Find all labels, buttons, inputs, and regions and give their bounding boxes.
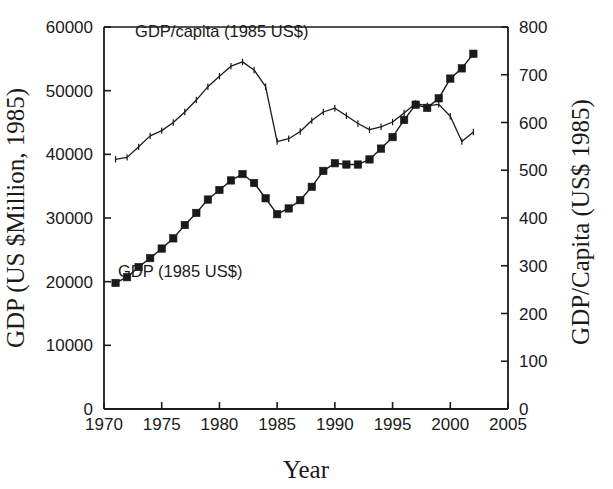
gdp-point-marker [273,210,280,217]
gdp-point-marker [389,133,396,140]
y-axis-right-title: GDP/Capita (US$ 1985) [567,99,595,345]
x-axis-tick-label: 2000 [431,415,469,434]
gdp-point-marker [343,161,350,168]
y-axis-right-tick-label: 500 [519,161,547,180]
y-axis-right-tick-label: 800 [519,18,547,37]
y-axis-left-title: GDP (US $Million, 1985) [2,88,30,348]
y-axis-right-tick-label: 300 [519,257,547,276]
gdp-point-marker [458,65,465,72]
gdp-point-marker [112,279,119,286]
gdp-point-marker [447,75,454,82]
chart-canvas: 0100002000030000400005000060000 01002003… [0,0,613,489]
x-axis-tick-label: 1985 [258,415,296,434]
gdp-point-marker [146,254,153,261]
gdp-point-marker [193,209,200,216]
gdp-point-marker [250,179,257,186]
y-axis-right-tick-label: 400 [519,209,547,228]
gdp-point-marker [377,145,384,152]
y-axis-right-tick-label: 100 [519,352,547,371]
gdp-point-marker [435,95,442,102]
x-axis-tick-label: 2005 [489,415,527,434]
x-axis-tick-label: 1980 [201,415,239,434]
gdp-chart-figure: 0100002000030000400005000060000 01002003… [0,0,613,489]
y-axis-left-tick-label: 40000 [46,145,93,164]
gdp-point-marker [412,101,419,108]
y-axis-right-tick-labels: 0100200300400500600700800 [519,18,547,419]
y-axis-right-tick-label: 700 [519,66,547,85]
y-axis-left-tick-label: 50000 [46,82,93,101]
gdp-point-marker [285,205,292,212]
gdp-point-marker [354,161,361,168]
y-axis-left-tick-label: 10000 [46,336,93,355]
gdp-point-marker [297,196,304,203]
gdp-point-marker [239,170,246,177]
gdp-point-marker [158,245,165,252]
x-axis-tick-label: 1970 [85,415,123,434]
series-label-gdp-per-capita: GDP/capita (1985 US$) [135,22,308,40]
y-axis-left-tick-label: 30000 [46,209,93,228]
gdp-point-marker [366,156,373,163]
y-axis-right-tick-label: 200 [519,305,547,324]
y-axis-left-tick-label: 60000 [46,18,93,37]
series-label-gdp: GDP (1985 US$) [118,262,242,280]
x-axis-tick-label: 1995 [374,415,412,434]
gdp-point-marker [331,160,338,167]
gdp-point-marker [216,186,223,193]
x-axis-title: Year [283,456,330,483]
gdp-point-marker [320,167,327,174]
gdp-point-marker [424,104,431,111]
gdp-point-marker [204,196,211,203]
gdp-point-marker [262,195,269,202]
gdp-point-marker [227,177,234,184]
x-axis-tick-label: 1990 [316,415,354,434]
gdp-point-marker [400,116,407,123]
gdp-point-marker [170,235,177,242]
y-axis-left-tick-label: 20000 [46,273,93,292]
gdp-point-marker [470,50,477,57]
y-axis-right-tick-label: 600 [519,114,547,133]
gdp-point-marker [308,183,315,190]
x-axis-tick-label: 1975 [143,415,181,434]
gdp-point-marker [181,221,188,228]
